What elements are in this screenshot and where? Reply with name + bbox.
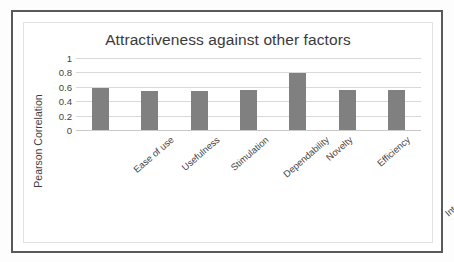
y-tick-label: 0.2 [59, 110, 72, 121]
chart-title: Attractiveness against other factors [24, 31, 432, 49]
x-tick-label-efficiency: Efficiency [375, 134, 412, 169]
bar-stimulation[interactable] [191, 91, 208, 130]
bar-novelty[interactable] [289, 73, 306, 130]
x-tick-label-dependability: Dependability [280, 134, 330, 180]
figure-outer-border: Attractiveness against other factors Pea… [11, 10, 443, 253]
chart-container[interactable]: Attractiveness against other factors Pea… [23, 22, 433, 243]
bar-ease-of-use[interactable] [92, 88, 109, 130]
x-tick-label-usefulness: Usefulness [179, 134, 221, 173]
y-tick-label: 0 [67, 125, 72, 136]
x-tick-label-ease-of-use: Ease of use [131, 134, 176, 175]
x-tick-label-stimulation: Stimulation [229, 134, 271, 173]
x-axis-category-labels: Ease of useUsefulnessStimulationDependab… [76, 131, 421, 246]
y-tick-label: 0.6 [59, 81, 72, 92]
bar-efficiency[interactable] [339, 90, 356, 130]
bar-intention-to-use-in-the-future[interactable] [388, 90, 405, 130]
bar-dependability[interactable] [240, 90, 257, 130]
y-tick-label: 0.8 [59, 67, 72, 78]
bar-usefulness[interactable] [141, 91, 158, 130]
y-tick-label: 0.4 [59, 96, 72, 107]
screenshot-root: Attractiveness against other factors Pea… [0, 0, 454, 262]
y-tick-label: 1 [67, 53, 72, 64]
plot-area: 00.20.40.60.81 [76, 58, 421, 130]
x-tick-label-intention-to-use-in-the-future: Intention to use in the future [443, 134, 454, 219]
y-axis-title: Pearson Correlation [32, 94, 44, 187]
bars-group [76, 58, 421, 130]
